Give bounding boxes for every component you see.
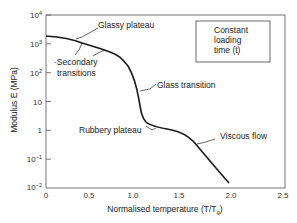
x-tick-labels: 0 0.5 1.0 1.5 2.0 2.5 <box>44 191 289 200</box>
svg-text:0.5: 0.5 <box>83 191 95 200</box>
label-glass-transition: Glass transition <box>157 80 216 90</box>
label-secondary-transitions-1: ·Secondary <box>54 57 98 67</box>
y-tick-labels: 104 103 102 10 1 10−1 10−2 <box>27 10 43 192</box>
label-rubbery-plateau: Rubbery plateau <box>79 125 142 135</box>
chart-svg: 104 103 102 10 1 10−1 10−2 0 0.5 1.0 1.5… <box>0 0 297 223</box>
condition-line-2: loading <box>214 35 242 45</box>
svg-text:1.5: 1.5 <box>173 191 185 200</box>
svg-text:1.0: 1.0 <box>127 191 139 200</box>
svg-text:10−2: 10−2 <box>27 182 42 192</box>
svg-text:104: 104 <box>30 10 42 20</box>
condition-line-1: Constant <box>214 25 249 35</box>
svg-text:2.5: 2.5 <box>277 191 289 200</box>
label-viscous-flow: Viscous flow <box>220 131 268 141</box>
label-secondary-transitions-2: transitions <box>57 68 96 78</box>
svg-text:2.0: 2.0 <box>225 191 237 200</box>
y-axis-title: Modulus E (MPa) <box>9 67 19 133</box>
svg-text:0: 0 <box>44 191 49 200</box>
svg-text:102: 102 <box>30 68 42 78</box>
svg-text:103: 103 <box>30 39 42 49</box>
condition-line-3: time (t) <box>214 45 241 55</box>
svg-text:10: 10 <box>33 98 42 107</box>
x-axis-title: Normalised temperature (T/Tg) <box>107 204 222 215</box>
svg-text:10−1: 10−1 <box>27 154 42 164</box>
svg-text:1: 1 <box>38 126 43 135</box>
label-glassy-plateau: Glassy plateau <box>98 20 154 30</box>
